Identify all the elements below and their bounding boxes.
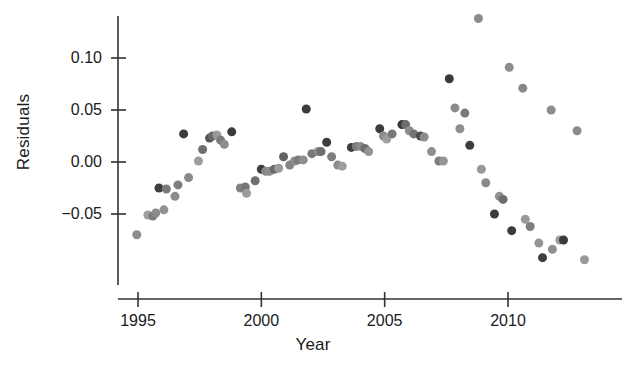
data-point bbox=[274, 164, 283, 173]
data-point bbox=[580, 255, 589, 264]
data-point bbox=[242, 189, 251, 198]
y-tick-label: −0.05 bbox=[20, 205, 102, 223]
scatter-figure: 0.100.050.00−0.05 1995200020052010 Resid… bbox=[0, 0, 629, 367]
data-point bbox=[534, 239, 543, 248]
x-tick-label: 2010 bbox=[490, 312, 526, 330]
data-point bbox=[364, 147, 373, 156]
data-point bbox=[327, 152, 336, 161]
data-point bbox=[460, 109, 469, 118]
data-point bbox=[198, 145, 207, 154]
x-tick-label: 2005 bbox=[367, 312, 403, 330]
data-point bbox=[251, 176, 260, 185]
data-point bbox=[573, 126, 582, 135]
data-point bbox=[518, 84, 527, 93]
data-point bbox=[559, 236, 568, 245]
data-point bbox=[302, 104, 311, 113]
data-point bbox=[194, 156, 203, 165]
data-point bbox=[427, 147, 436, 156]
data-point bbox=[450, 103, 459, 112]
data-point bbox=[227, 127, 236, 136]
data-point bbox=[159, 205, 168, 214]
data-point bbox=[132, 230, 141, 239]
data-point bbox=[317, 147, 326, 156]
data-point bbox=[507, 226, 516, 235]
data-point bbox=[538, 253, 547, 262]
x-axis-label: Year bbox=[253, 335, 373, 355]
data-point bbox=[455, 124, 464, 133]
x-tick-label: 1995 bbox=[120, 312, 156, 330]
y-axis-label: Residuals bbox=[14, 72, 34, 192]
data-point bbox=[474, 14, 483, 23]
data-point bbox=[338, 162, 347, 171]
data-point bbox=[477, 165, 486, 174]
data-point bbox=[388, 129, 397, 138]
data-point bbox=[173, 180, 182, 189]
data-point bbox=[481, 178, 490, 187]
data-point bbox=[162, 185, 171, 194]
x-tick-label: 2000 bbox=[244, 312, 280, 330]
data-point bbox=[445, 74, 454, 83]
y-tick-label: 0.10 bbox=[20, 49, 102, 67]
data-point bbox=[299, 155, 308, 164]
data-points-layer bbox=[132, 14, 589, 264]
data-point bbox=[279, 152, 288, 161]
data-point bbox=[439, 156, 448, 165]
data-point bbox=[465, 141, 474, 150]
data-point bbox=[526, 222, 535, 231]
data-point bbox=[548, 245, 557, 254]
data-point bbox=[179, 129, 188, 138]
data-point bbox=[547, 106, 556, 115]
data-point bbox=[184, 173, 193, 182]
data-point bbox=[171, 192, 180, 201]
data-point bbox=[420, 133, 429, 142]
data-point bbox=[490, 210, 499, 219]
data-point bbox=[499, 195, 508, 204]
data-point bbox=[505, 63, 514, 72]
data-point bbox=[220, 140, 229, 149]
data-point bbox=[151, 208, 160, 217]
data-point bbox=[322, 138, 331, 147]
